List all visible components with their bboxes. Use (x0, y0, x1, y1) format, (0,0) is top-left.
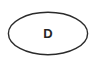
diagram-canvas: D (0, 0, 96, 67)
node-label-d: D (0, 27, 96, 40)
